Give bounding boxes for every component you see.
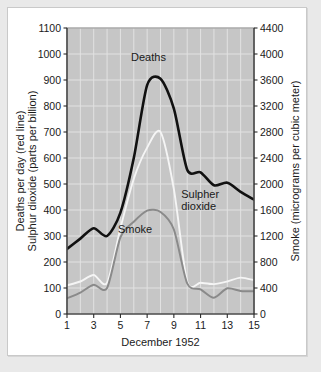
y-axis-left-tick-label: 600 [43,152,61,164]
y-axis-right-tick-label: 400 [260,282,278,294]
y-axis-right-tick-label: 4000 [260,48,284,60]
x-axis-tick-label: 15 [248,319,260,331]
y-axis-left: 010020030040050060070080090010001100 [38,22,67,320]
x-axis-tick-label: 7 [144,319,150,331]
y-axis-left-tick-label: 500 [43,178,61,190]
y-axis-left-tick-label: 800 [43,100,61,112]
y-axis-right-tick-label: 0 [260,308,266,320]
series-label-deaths: Deaths [131,51,166,63]
y-axis-right-tick-label: 2800 [260,126,284,138]
chart-canvas: 010020030040050060070080090010001100 040… [8,8,308,357]
y-axis-right-tick-label: 2000 [260,178,284,190]
x-axis: 13579111315 [64,314,260,331]
line-chart: 010020030040050060070080090010001100 040… [8,8,308,357]
series-label-sulpher-dioxide-line2: dioxide [181,200,216,212]
y-axis-left-tick-label: 100 [43,282,61,294]
y-axis-right-tick-label: 3200 [260,100,284,112]
x-axis-tick-label: 13 [221,319,233,331]
y-axis-right-tick-label: 3600 [260,74,284,86]
x-axis-title: December 1952 [121,336,199,348]
x-axis-tick-label: 1 [64,319,70,331]
series-label-sulpher-dioxide-line1: Sulpher [181,188,219,200]
y-axis-left-tick-label: 1100 [38,22,61,34]
y-axis-right: 0400800120016002000240028003200360040004… [254,22,284,320]
x-axis-tick-label: 5 [118,319,124,331]
y-axis-right-tick-label: 4400 [260,22,284,34]
y-axis-right-title: Smoke (micrograms per cubic meter) [289,81,301,262]
y-axis-left-tick-label: 200 [43,256,61,268]
y-axis-right-tick-label: 1600 [260,204,284,216]
x-axis-tick-label: 3 [91,319,97,331]
y-axis-left-tick-label: 900 [43,74,61,86]
y-axis-left-tick-label: 300 [43,230,61,242]
series-label-smoke: Smoke [118,223,152,235]
y-axis-left-title-line1: Deaths per day (red line) [14,110,26,231]
y-axis-left-title-line2: Sulphur dioxide (parts per billion) [26,91,38,252]
x-axis-tick-label: 9 [171,319,177,331]
y-axis-left-tick-label: 0 [55,308,61,320]
y-axis-left-tick-label: 700 [43,126,61,138]
y-axis-right-tick-label: 2400 [260,152,284,164]
y-axis-left-tick-label: 400 [43,204,61,216]
y-axis-right-tick-label: 800 [260,256,278,268]
x-axis-tick-label: 11 [195,319,206,331]
y-axis-left-tick-label: 1000 [38,48,62,60]
y-axis-right-tick-label: 1200 [260,230,284,242]
figure-card: 010020030040050060070080090010001100 040… [7,7,307,356]
